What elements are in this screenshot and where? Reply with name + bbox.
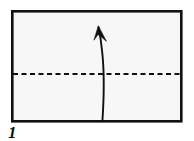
paper-rectangle	[12, 11, 181, 121]
origami-figure	[0, 0, 194, 141]
step-number-label: 1	[8, 124, 17, 141]
diagram-canvas: 1	[0, 0, 194, 141]
